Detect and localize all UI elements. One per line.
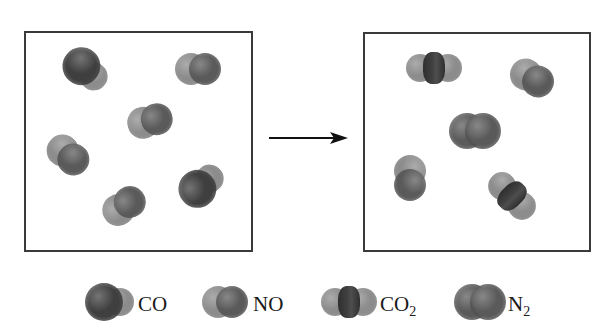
legend-sub-n2: 2: [523, 304, 530, 319]
legend-label-co2: CO: [380, 292, 409, 316]
reaction-arrow-icon: [268, 131, 350, 145]
carbon-atom: [338, 286, 360, 318]
nitrogen-atom: [216, 286, 248, 318]
legend-label-co: CO: [138, 292, 167, 316]
legend-sub-co2: 2: [409, 304, 416, 319]
carbon-atom: [85, 283, 123, 321]
nitrogen-atom: [394, 169, 426, 201]
legend-label-n2: N: [508, 292, 523, 316]
nitrogen-atom: [470, 284, 506, 320]
nitrogen-atom: [189, 53, 221, 85]
carbon-atom: [423, 52, 445, 84]
legend: CO NO CO2 N2: [0, 284, 610, 324]
nitrogen-atom: [465, 113, 501, 149]
legend-label-no: NO: [253, 292, 283, 316]
